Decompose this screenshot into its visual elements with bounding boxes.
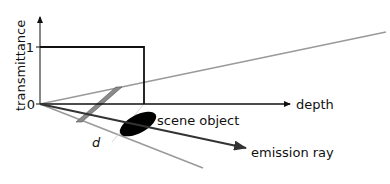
- scene-object-label: scene object: [157, 113, 239, 128]
- emission-ray-label: emission ray: [251, 145, 334, 160]
- frustum-upper-edge: [40, 32, 386, 104]
- y-tick-one-label: 1: [26, 40, 34, 55]
- transmittance-step: [40, 47, 144, 104]
- y-axis-label: transmittance: [13, 20, 28, 111]
- y-tick-zero-label: 0: [27, 97, 35, 112]
- transmittance-diagram: transmittance 1 0 depth scene object emi…: [0, 0, 390, 184]
- distance-label: d: [92, 135, 101, 150]
- depth-label: depth: [296, 97, 334, 112]
